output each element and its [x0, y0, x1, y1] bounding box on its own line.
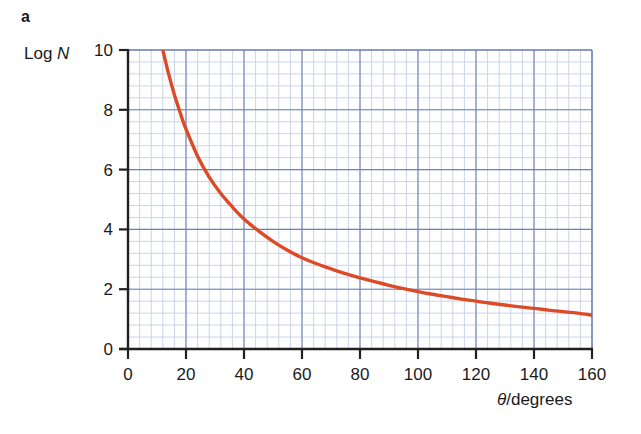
x-tick-label: 160 — [578, 365, 606, 384]
y-tick-label: 4 — [104, 220, 113, 239]
y-tick-label: 10 — [94, 41, 113, 60]
x-tick-label: 80 — [351, 365, 370, 384]
figure-panel: a Log N θ/degrees 0246810020406080100120… — [0, 0, 641, 434]
chart-canvas: 0246810020406080100120140160 — [0, 0, 641, 434]
axis-tick-labels: 0246810020406080100120140160 — [94, 41, 606, 384]
y-tick-label: 6 — [104, 161, 113, 180]
data-series-line — [163, 50, 592, 315]
y-tick-label: 8 — [104, 101, 113, 120]
x-tick-label: 0 — [123, 365, 132, 384]
x-tick-label: 140 — [520, 365, 548, 384]
x-tick-label: 100 — [404, 365, 432, 384]
y-tick-label: 0 — [104, 340, 113, 359]
x-tick-label: 120 — [462, 365, 490, 384]
x-tick-label: 40 — [235, 365, 254, 384]
x-tick-label: 60 — [293, 365, 312, 384]
data-series-group — [163, 50, 592, 315]
y-tick-label: 2 — [104, 280, 113, 299]
x-tick-label: 20 — [177, 365, 196, 384]
